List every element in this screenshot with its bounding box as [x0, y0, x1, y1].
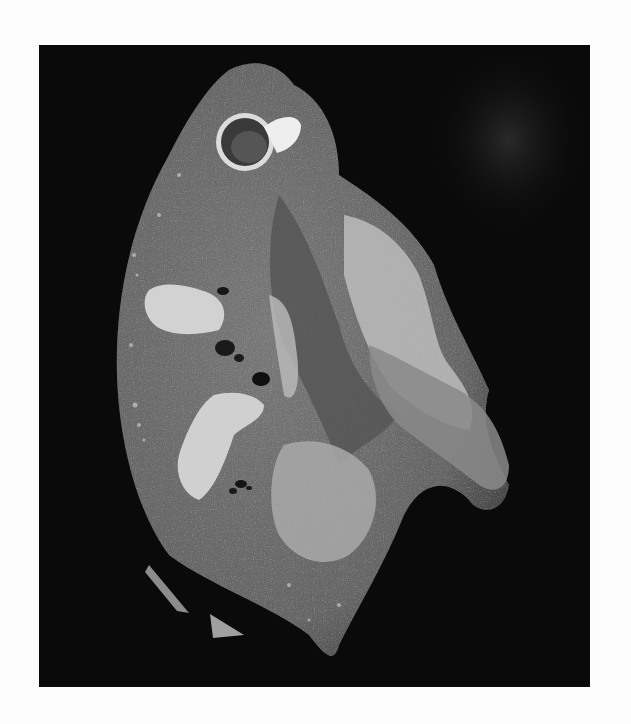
- background-object: [429, 45, 589, 235]
- specimen-photograph: [39, 45, 590, 687]
- specimen-illustration: [39, 45, 590, 687]
